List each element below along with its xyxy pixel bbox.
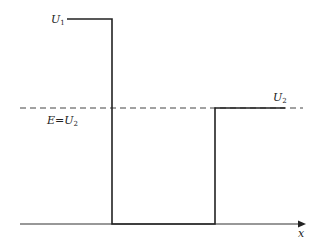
potential-diagram: U1 U2 E=U2 x [0,0,323,248]
u2-label: U2 [273,91,287,105]
u1-label: U1 [51,13,65,27]
energy-label: E=U2 [46,114,78,128]
x-axis-label: x [298,227,305,240]
potential-profile [67,19,285,224]
